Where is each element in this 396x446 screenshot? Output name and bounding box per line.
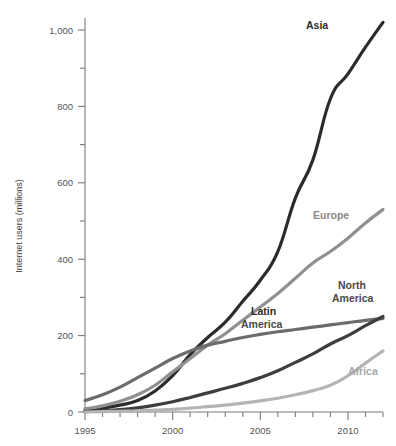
series-label-north: North xyxy=(338,279,366,291)
series-labels: AsiaEuropeNorthAmericaLatinAmericaAfrica xyxy=(241,19,378,377)
y-axis-title-text: Internet users (millions) xyxy=(14,179,24,273)
y-tick-label: 1,000 xyxy=(49,25,73,36)
y-tick-label: 200 xyxy=(57,330,73,341)
y-tick-label: 400 xyxy=(57,254,73,265)
x-tick-label: 2010 xyxy=(337,425,358,436)
x-tick-label: 2005 xyxy=(250,425,271,436)
y-tick-label: 600 xyxy=(57,177,73,188)
y-tick-label: 800 xyxy=(57,101,73,112)
series-label-america: America xyxy=(332,292,374,304)
x-tick-label: 1995 xyxy=(74,425,95,436)
internet-users-line-chart: 02004006008001,000 1995200020052010 Asia… xyxy=(0,0,396,446)
chart-canvas: 02004006008001,000 1995200020052010 Asia… xyxy=(0,0,396,446)
y-axis-title: Internet users (millions) xyxy=(14,179,24,273)
y-axis: 02004006008001,000 xyxy=(49,18,85,418)
x-axis: 1995200020052010 xyxy=(74,412,383,436)
series-line-north-america xyxy=(85,318,383,400)
x-tick-label: 2000 xyxy=(162,425,183,436)
series-label-asia: Asia xyxy=(306,19,328,31)
series-line-europe xyxy=(85,210,383,409)
series-label-latin: Latin xyxy=(251,305,276,317)
series-label-america: America xyxy=(241,318,283,330)
series-label-africa: Africa xyxy=(348,365,378,377)
y-tick-label: 0 xyxy=(68,407,73,418)
series-label-europe: Europe xyxy=(313,209,349,221)
